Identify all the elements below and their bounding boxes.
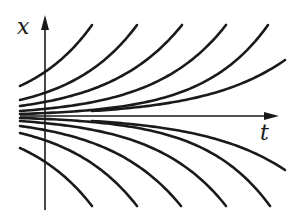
trajectory-curve-up-2 <box>20 25 137 100</box>
trajectory-curve-down-3 <box>20 126 181 206</box>
t-axis-arrow-icon <box>264 112 279 120</box>
phase-portrait-diagram <box>0 0 293 218</box>
x-axis-label: x <box>17 16 29 38</box>
trajectory-curve-down-2 <box>20 133 137 206</box>
trajectory-curve-down-6 <box>92 121 285 170</box>
t-axis-label: t <box>260 122 269 144</box>
trajectory-curve-up-6 <box>92 60 285 111</box>
trajectory-curve-down-5 <box>20 118 270 206</box>
x-axis-arrow-icon <box>41 15 49 30</box>
